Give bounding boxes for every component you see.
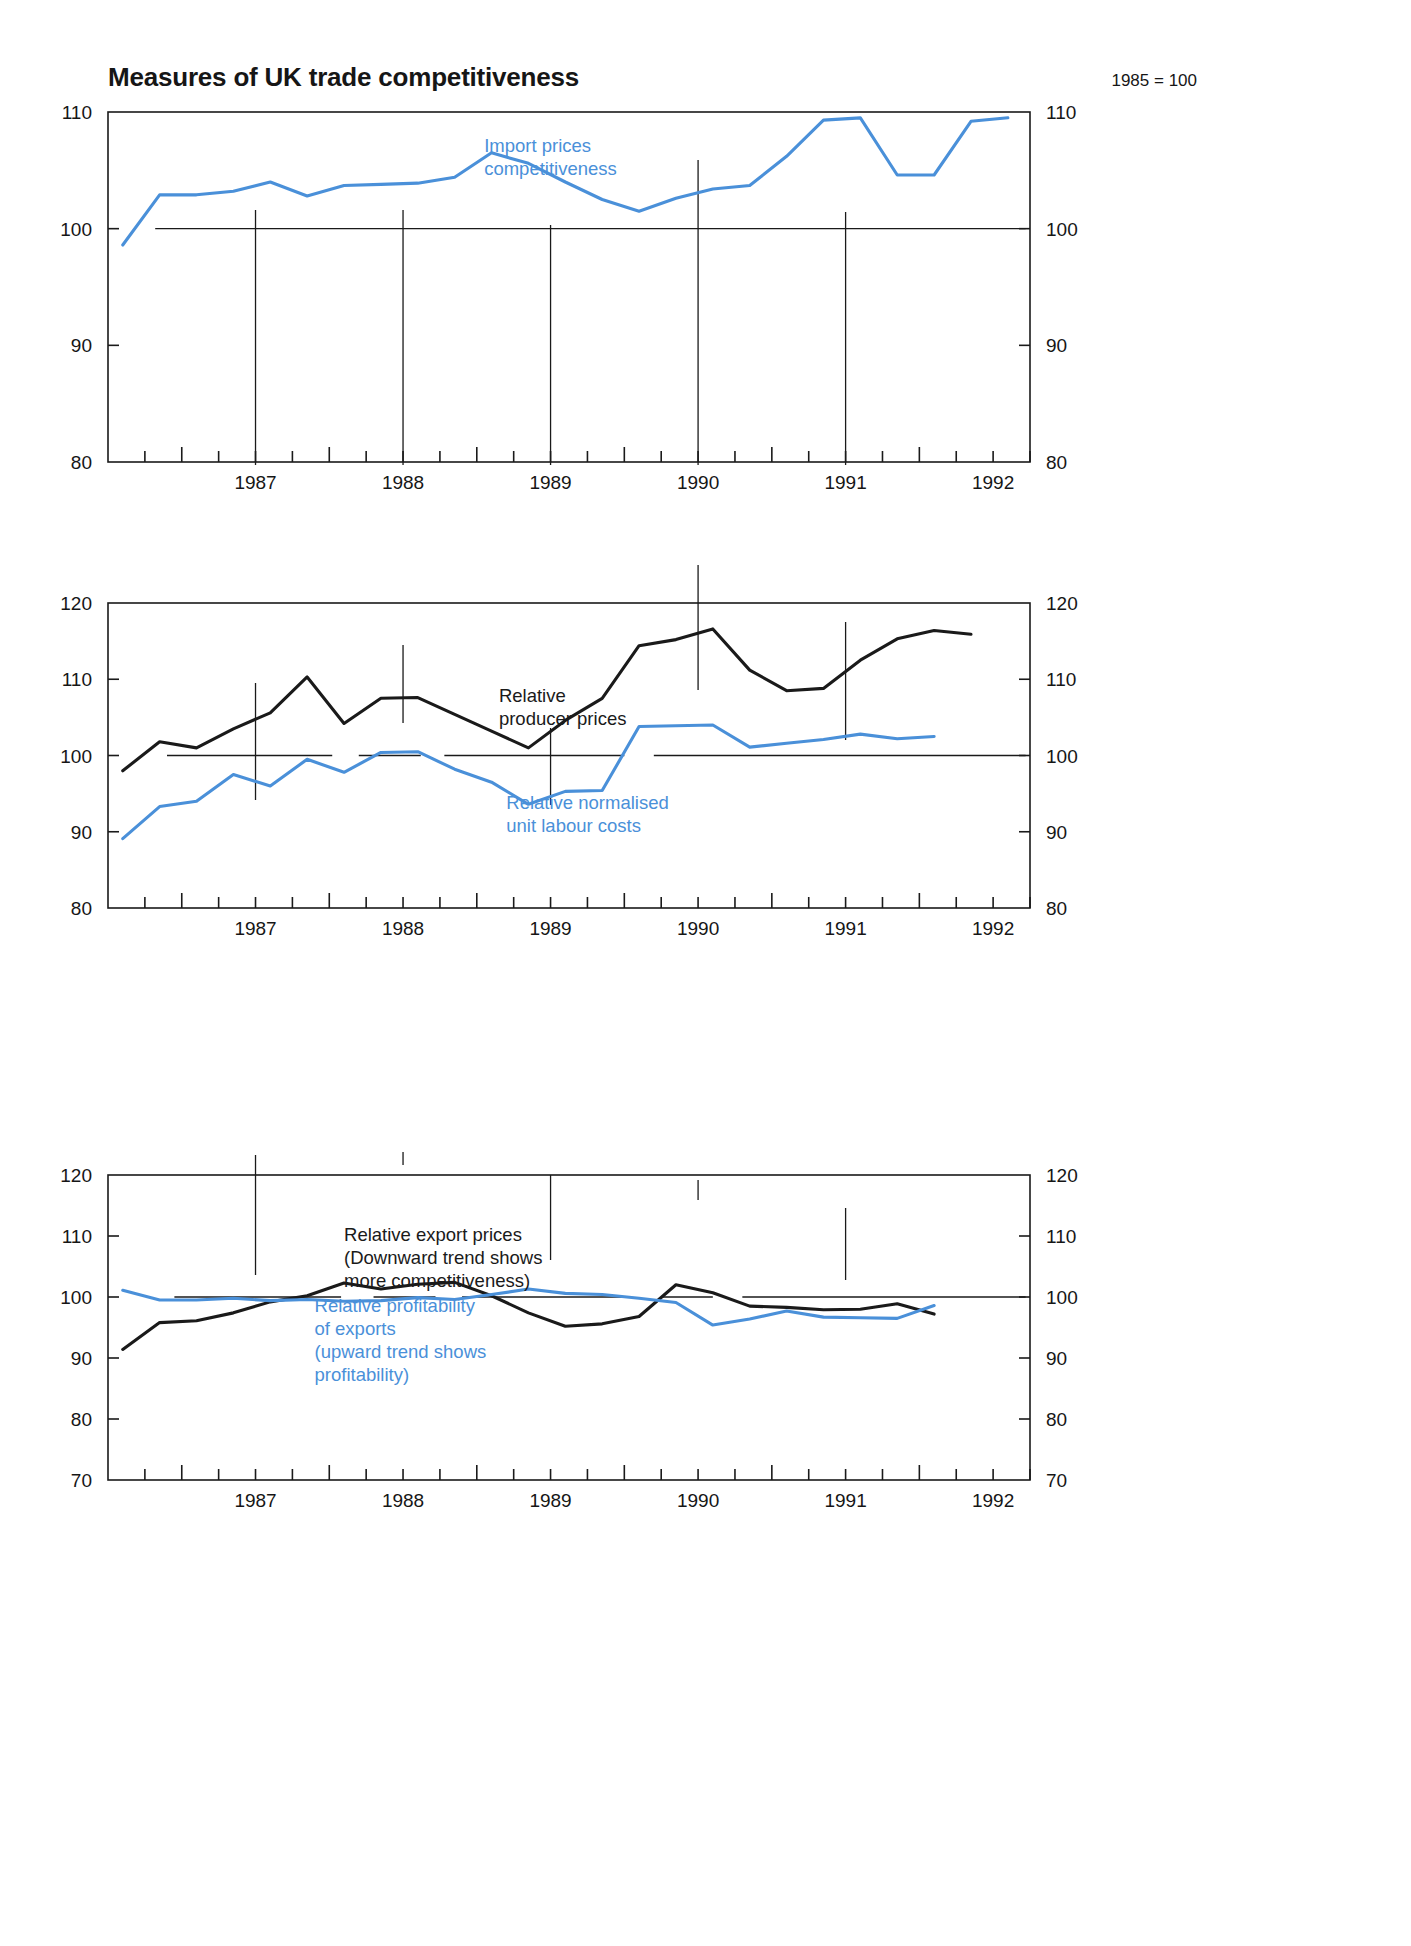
x-axis-year-label: 1987 [234, 472, 276, 493]
y-axis-label-left: 100 [60, 746, 92, 767]
page-title: Measures of UK trade competitiveness [108, 62, 579, 93]
chart-panels-svg: 8080909010010011011019871988198919901991… [0, 0, 1411, 1946]
y-axis-label-right: 120 [1046, 1165, 1078, 1186]
y-axis-label-left: 100 [60, 1287, 92, 1308]
x-axis-year-label: 1990 [677, 472, 719, 493]
y-axis-label-left: 80 [71, 1409, 92, 1430]
x-axis-year-label: 1990 [677, 918, 719, 939]
y-axis-label-right: 100 [1046, 219, 1078, 240]
chart-panel-2: 8080909010010011011012012019871988198919… [60, 565, 1077, 939]
y-axis-label-right: 70 [1046, 1470, 1067, 1491]
series-annotation-black: Relative export prices(Downward trend sh… [344, 1224, 542, 1291]
annotation-line: Relative [499, 685, 566, 706]
chart-panel-1: 8080909010010011011019871988198919901991… [60, 102, 1077, 493]
x-axis-year-label: 1991 [824, 472, 866, 493]
y-axis-label-left: 110 [62, 1226, 92, 1247]
y-axis-label-right: 110 [1046, 102, 1076, 123]
chart-panel-3: 7070808090901001001101101201201987198819… [60, 1152, 1077, 1511]
x-axis-year-label: 1991 [824, 1490, 866, 1511]
annotation-line: (Downward trend shows [344, 1247, 542, 1268]
annotation-line: profitability) [315, 1364, 410, 1385]
y-axis-label-left: 90 [71, 822, 92, 843]
x-axis-year-label: 1990 [677, 1490, 719, 1511]
y-axis-label-right: 80 [1046, 452, 1067, 473]
annotation-line: of exports [315, 1318, 396, 1339]
y-axis-label-right: 90 [1046, 1348, 1067, 1369]
y-axis-label-left: 70 [71, 1470, 92, 1491]
x-axis-year-label: 1988 [382, 472, 424, 493]
x-axis-year-label: 1989 [529, 472, 571, 493]
y-axis-label-right: 100 [1046, 1287, 1078, 1308]
y-axis-label-left: 120 [60, 593, 92, 614]
annotation-line: more competitiveness) [344, 1270, 530, 1291]
x-axis-year-label: 1989 [529, 1490, 571, 1511]
y-axis-label-left: 110 [62, 102, 92, 123]
y-axis-label-left: 80 [71, 452, 92, 473]
y-axis-label-right: 80 [1046, 898, 1067, 919]
x-axis-year-label: 1992 [972, 1490, 1014, 1511]
figure-root: Measures of UK trade competitiveness 198… [0, 0, 1411, 1946]
annotation-line: unit labour costs [506, 815, 641, 836]
index-base-note: 1985 = 100 [1111, 71, 1197, 91]
y-axis-label-right: 80 [1046, 1409, 1067, 1430]
y-axis-label-left: 90 [71, 1348, 92, 1369]
annotation-line: (upward trend shows [315, 1341, 487, 1362]
annotation-line: producer prices [499, 708, 627, 729]
annotation-line: Relative normalised [506, 792, 668, 813]
series-annotation-blue: Relative profitabilityof exports(upward … [315, 1295, 487, 1385]
annotation-line: Relative export prices [344, 1224, 522, 1245]
series-line [123, 1289, 934, 1325]
x-axis-year-label: 1989 [529, 918, 571, 939]
y-axis-label-right: 100 [1046, 746, 1078, 767]
series-annotation-blue: Relative normalisedunit labour costs [506, 792, 668, 836]
x-axis-year-label: 1991 [824, 918, 866, 939]
y-axis-label-left: 90 [71, 335, 92, 356]
x-axis-year-label: 1988 [382, 1490, 424, 1511]
y-axis-label-right: 90 [1046, 335, 1067, 356]
y-axis-label-left: 80 [71, 898, 92, 919]
y-axis-label-left: 110 [62, 669, 92, 690]
x-axis-year-label: 1987 [234, 1490, 276, 1511]
y-axis-label-left: 120 [60, 1165, 92, 1186]
y-axis-label-right: 110 [1046, 669, 1076, 690]
figure-header: Measures of UK trade competitiveness 198… [108, 62, 1308, 102]
x-axis-year-label: 1992 [972, 472, 1014, 493]
x-axis-year-label: 1992 [972, 918, 1014, 939]
y-axis-label-right: 120 [1046, 593, 1078, 614]
annotation-line: Relative profitability [315, 1295, 476, 1316]
x-axis-year-label: 1988 [382, 918, 424, 939]
annotation-line: competitiveness [484, 158, 617, 179]
annotation-line: Import prices [484, 135, 591, 156]
y-axis-label-right: 110 [1046, 1226, 1076, 1247]
x-axis-year-label: 1987 [234, 918, 276, 939]
y-axis-label-right: 90 [1046, 822, 1067, 843]
y-axis-label-left: 100 [60, 219, 92, 240]
